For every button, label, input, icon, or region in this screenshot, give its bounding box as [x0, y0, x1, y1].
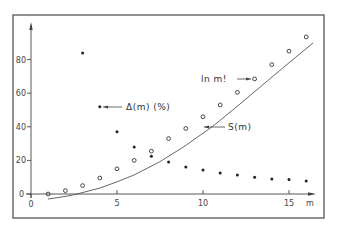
x-tick-label: 15 [284, 199, 294, 208]
ln-m-factorial-point [287, 49, 291, 53]
y-tick-label: 20 [16, 156, 26, 165]
annotation-delta: Δ(m) (%) [103, 102, 170, 112]
delta-m-point [270, 177, 273, 180]
arrow-left-icon [103, 106, 108, 109]
delta-m-point [253, 176, 256, 179]
delta-m-point [150, 155, 153, 158]
ln-m-factorial-point [270, 63, 274, 67]
ln-m-factorial-point [184, 127, 188, 131]
x-axis-arrow-icon [308, 192, 316, 195]
delta-m-point [288, 178, 291, 181]
annotation-delta-label: Δ(m) (%) [126, 102, 170, 112]
annotation-s-m-label: S(m) [228, 122, 252, 132]
ln-m-factorial-point [98, 176, 102, 180]
ln-m-factorial-point [253, 77, 257, 81]
ln-m-factorial-point [218, 103, 222, 107]
ln-m-factorial-point [81, 184, 85, 188]
arrow-right-icon [246, 78, 251, 81]
delta-m-point [236, 174, 239, 177]
annotation-ln-m-factorial: ln m! [201, 74, 251, 84]
delta-m-point [202, 168, 205, 171]
x-tick-label: 10 [198, 199, 208, 208]
delta-m-series [81, 51, 308, 182]
axes [26, 22, 316, 198]
ln-m-factorial-point [167, 137, 171, 141]
ln-m-factorial-point [115, 167, 119, 171]
ln-m-factorial-point [150, 149, 154, 153]
delta-m-point [81, 51, 84, 54]
y-tick-label: 80 [16, 56, 26, 65]
chart: 0 20 40 60 80 0 5 10 15 m Δ(m) (%) S(m) … [0, 0, 337, 229]
y-tick-label: 0 [19, 190, 24, 199]
delta-m-point [133, 145, 136, 148]
ln-m-factorial-point [132, 159, 136, 163]
delta-m-point [219, 172, 222, 175]
x-axis-label: m [306, 199, 314, 208]
x-tick-label: 5 [114, 199, 119, 208]
delta-m-point [167, 161, 170, 164]
arrow-left-icon [204, 126, 209, 129]
annotation-ln-m-factorial-label: ln m! [201, 74, 227, 84]
ln-m-factorial-point [236, 90, 240, 94]
y-tick-label: 60 [16, 89, 26, 98]
x-tick-label: 0 [28, 200, 33, 209]
delta-m-point [98, 105, 101, 108]
delta-m-point [116, 130, 119, 133]
chart-frame [13, 15, 324, 218]
delta-m-point [305, 180, 308, 183]
ln-m-factorial-series [46, 35, 308, 196]
ln-m-factorial-point [304, 35, 308, 39]
annotation-s-m: S(m) [204, 122, 252, 132]
ln-m-factorial-point [64, 189, 68, 193]
y-tick-label: 40 [16, 123, 26, 132]
ln-m-factorial-point [201, 115, 205, 119]
y-axis-arrow-icon [29, 22, 32, 30]
delta-m-point [184, 166, 187, 169]
